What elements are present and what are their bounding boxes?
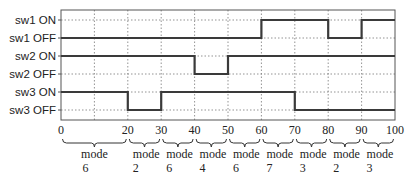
signal-sw2 xyxy=(61,56,395,74)
y-level-label: sw1 OFF xyxy=(9,32,56,44)
mode-label: mode xyxy=(133,147,160,161)
mode-number: 6 xyxy=(233,161,239,175)
x-tick-label: 80 xyxy=(322,123,334,137)
mode-brace xyxy=(129,139,159,147)
mode-brace xyxy=(263,139,293,147)
y-level-label: sw1 ON xyxy=(15,14,56,26)
mode-brace xyxy=(163,139,193,147)
mode-number: 7 xyxy=(266,161,272,175)
mode-number: 6 xyxy=(82,161,88,175)
mode-brace xyxy=(330,139,360,147)
mode-label: mode xyxy=(367,147,394,161)
mode-brace xyxy=(363,139,393,147)
x-tick-label: 30 xyxy=(155,123,167,137)
mode-brace xyxy=(63,139,127,147)
mode-number: 2 xyxy=(333,161,339,175)
mode-label: mode xyxy=(81,147,108,161)
x-tick-label: 0 xyxy=(58,123,64,137)
mode-label: mode xyxy=(266,147,293,161)
y-axis-labels: sw1 ONsw1 OFFsw2 ONsw2 OFFsw3 ONsw3 OFF xyxy=(9,14,61,116)
mode-label: mode xyxy=(233,147,260,161)
x-tick-label: 20 xyxy=(122,123,134,137)
mode-number: 6 xyxy=(166,161,172,175)
mode-number: 3 xyxy=(367,161,373,175)
x-tick-label: 70 xyxy=(289,123,301,137)
y-level-label: sw3 OFF xyxy=(9,104,56,116)
mode-label: mode xyxy=(200,147,227,161)
x-tick-label: 90 xyxy=(356,123,368,137)
mode-number: 3 xyxy=(300,161,306,175)
y-level-label: sw2 ON xyxy=(15,50,56,62)
mode-label: mode xyxy=(333,147,360,161)
y-level-label: sw2 OFF xyxy=(9,68,56,80)
mode-annotations: mode6mode2mode6mode4mode6mode7mode3mode2… xyxy=(63,139,394,175)
y-level-label: sw3 ON xyxy=(15,86,56,98)
mode-label: mode xyxy=(300,147,327,161)
x-tick-label: 50 xyxy=(222,123,234,137)
x-tick-label: 40 xyxy=(189,123,201,137)
mode-brace xyxy=(296,139,326,147)
mode-label: mode xyxy=(166,147,193,161)
x-axis-tick-labels: 02030405060708090100 xyxy=(58,123,404,137)
mode-brace xyxy=(196,139,226,147)
mode-number: 2 xyxy=(133,161,139,175)
mode-brace xyxy=(230,139,260,147)
x-tick-label: 60 xyxy=(255,123,267,137)
switch-timing-diagram: sw1 ONsw1 OFFsw2 ONsw2 OFFsw3 ONsw3 OFF … xyxy=(0,0,420,178)
mode-number: 4 xyxy=(200,161,206,175)
switch-signals xyxy=(61,20,395,110)
x-tick-label: 100 xyxy=(386,123,404,137)
